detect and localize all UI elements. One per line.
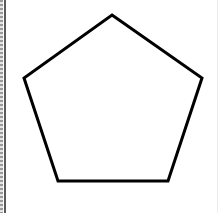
pentagon-shape bbox=[24, 15, 202, 181]
diagram-canvas bbox=[0, 0, 219, 213]
